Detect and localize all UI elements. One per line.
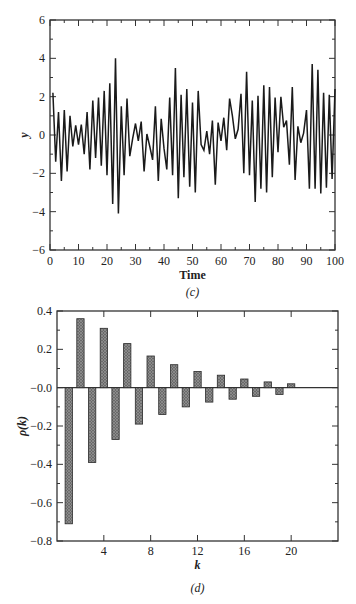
acf-bar — [182, 388, 189, 407]
acf-bar — [241, 379, 248, 388]
acf-bar — [217, 375, 224, 388]
y-tick-label: 0.4 — [37, 304, 52, 318]
x-tick-label: 80 — [272, 254, 284, 268]
x-tick-label: 60 — [215, 254, 227, 268]
y-tick-label: −0.6 — [30, 496, 52, 510]
acf-bar — [159, 388, 166, 415]
x-tick-label: 16 — [238, 544, 250, 558]
acf-bar — [229, 388, 236, 400]
y-tick-label: 4 — [39, 51, 45, 65]
y-tick-label: −0.8 — [30, 534, 52, 548]
x-tick-label: 90 — [301, 254, 313, 268]
plot-frame — [57, 311, 338, 541]
y-tick-label: −0.2 — [30, 419, 52, 433]
acf-bar — [264, 382, 271, 388]
acf-bar — [77, 319, 84, 388]
y-tick-label: −2 — [32, 166, 45, 180]
acf-bar-plot: 481216200.40.2−0.0−0.2−0.4−0.6−0.8kρ(k)(… — [0, 300, 356, 604]
time-series-figure: 01020304050607080901006420−2−4−6Timey(c) — [0, 0, 356, 300]
y-tick-label: −6 — [32, 243, 45, 257]
x-tick-label: 30 — [130, 254, 142, 268]
acf-figure: 481216200.40.2−0.0−0.2−0.4−0.6−0.8kρ(k)(… — [0, 300, 356, 604]
time-series-plot: 01020304050607080901006420−2−4−6Timey(c) — [0, 0, 356, 300]
x-tick-label: 0 — [47, 254, 53, 268]
x-tick-label: 70 — [244, 254, 256, 268]
x-tick-label: 40 — [158, 254, 170, 268]
y-tick-label: −4 — [32, 205, 45, 219]
x-tick-label: 20 — [285, 544, 297, 558]
y-tick-label: −0.4 — [30, 457, 52, 471]
acf-bar — [194, 371, 201, 387]
y-tick-label: 6 — [39, 13, 45, 27]
plot-frame — [50, 20, 335, 250]
acf-bar — [252, 388, 259, 397]
y-tick-label: 0.2 — [37, 342, 52, 356]
x-tick-label: 50 — [187, 254, 199, 268]
acf-bar — [89, 388, 96, 463]
series-line — [53, 58, 335, 213]
panel-caption: (c) — [186, 285, 199, 299]
acf-bar — [276, 388, 283, 395]
y-tick-label: 0 — [39, 128, 45, 142]
acf-bar — [135, 388, 142, 424]
x-tick-label: 8 — [148, 544, 154, 558]
x-axis-label: Time — [179, 268, 206, 282]
y-axis-label: y — [17, 132, 31, 140]
acf-bar — [171, 365, 178, 388]
acf-bar — [147, 356, 154, 388]
acf-bar — [65, 388, 72, 524]
panel-caption: (d) — [191, 581, 205, 595]
x-tick-label: 12 — [192, 544, 204, 558]
acf-bar — [288, 384, 295, 388]
x-tick-label: 10 — [73, 254, 85, 268]
y-tick-label: 2 — [39, 90, 45, 104]
x-tick-label: 4 — [101, 544, 107, 558]
x-axis-label: k — [195, 558, 201, 572]
acf-bar — [124, 344, 131, 388]
x-tick-label: 100 — [326, 254, 344, 268]
acf-bar — [100, 328, 107, 387]
y-axis-label: ρ(k) — [15, 416, 29, 437]
acf-bar — [206, 388, 213, 402]
x-tick-label: 20 — [101, 254, 113, 268]
y-tick-label: −0.0 — [30, 381, 52, 395]
acf-bar — [112, 388, 119, 440]
